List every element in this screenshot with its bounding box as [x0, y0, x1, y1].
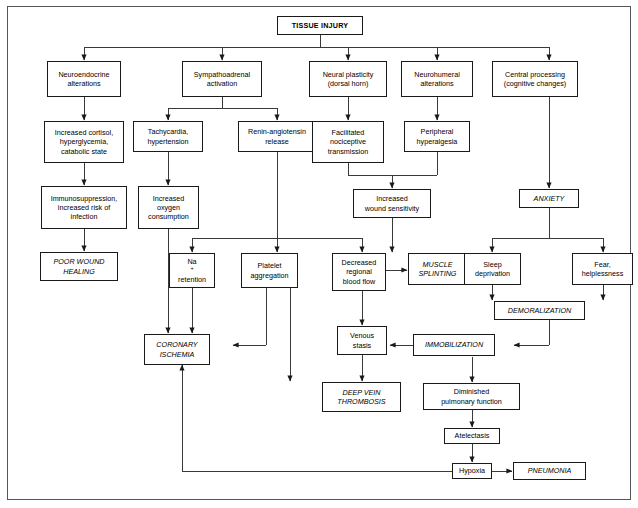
node-increased-oxygen-consumption[interactable]: Increased oxygen consumption [138, 186, 199, 229]
node-venous-stasis[interactable]: Venous stasis [337, 326, 387, 355]
node-tissue-injury[interactable]: TISSUE INJURY [277, 16, 363, 35]
node-tachycardia-hypertension[interactable]: Tachycardia, hypertension [133, 121, 203, 152]
figure-canvas: TISSUE INJURY Neuroendocrine alterations… [0, 0, 638, 508]
node-hypoxia[interactable]: Hypoxia [452, 463, 492, 479]
node-deep-vein-thrombosis[interactable]: DEEP VEIN THROMBOSIS [322, 382, 401, 412]
node-sympathoadrenal-activation[interactable]: Sympathoadrenal activation [182, 61, 262, 97]
node-peripheral-hyperalgesia[interactable]: Peripheral hyperalgesia [404, 121, 470, 152]
node-atelectasis[interactable]: Atelectasis [444, 428, 500, 444]
node-anxiety[interactable]: ANXIETY [519, 189, 579, 208]
node-immunosuppression[interactable]: Immunosuppression, increased risk of inf… [41, 186, 127, 229]
node-renin-angiotensin-release[interactable]: Renin-angiotensin release [238, 121, 316, 152]
node-muscle-splinting[interactable]: MUSCLE SPLINTING [408, 253, 467, 285]
node-coronary-ischemia[interactable]: CORONARY ISCHEMIA [144, 334, 210, 365]
na-superscript: + [190, 265, 193, 271]
node-na-retention[interactable]: Na+ retention [169, 253, 215, 288]
node-decreased-regional-blood-flow[interactable]: Decreased regional blood flow [332, 253, 386, 291]
node-sleep-deprivation[interactable]: Sleep deprivation [464, 253, 521, 285]
node-increased-wound-sensitivity[interactable]: Increased wound sensitivity [353, 189, 431, 218]
node-platelet-aggregation[interactable]: Platelet aggregation [241, 253, 298, 288]
node-demoralization[interactable]: DEMORALIZATION [494, 301, 585, 320]
node-immobilization[interactable]: IMMOBILIZATION [413, 334, 495, 356]
node-neurohumeral-alterations[interactable]: Neurohumeral alterations [401, 61, 473, 97]
node-pneumonia[interactable]: PNEUMONIA [513, 462, 586, 480]
node-central-processing[interactable]: Central processing (cognitive changes) [492, 61, 578, 97]
retention-label: retention [172, 275, 212, 284]
node-facilitated-nociceptive-transmission[interactable]: Facilitated nociceptive transmission [312, 121, 384, 163]
node-poor-wound-healing[interactable]: POOR WOUND HEALING [40, 252, 118, 281]
na-retention-text: Na+ retention [172, 257, 212, 285]
node-increased-cortisol[interactable]: Increased cortisol, hyperglycemia, catab… [44, 121, 124, 163]
node-diminished-pulmonary-function[interactable]: Diminished pulmonary function [423, 383, 520, 410]
node-neural-plasticity[interactable]: Neural plasticity (dorsal horn) [309, 61, 387, 97]
node-fear-helplessness[interactable]: Fear, helplessness [572, 253, 633, 285]
node-neuroendocrine-alterations[interactable]: Neuroendocrine alterations [47, 61, 121, 97]
